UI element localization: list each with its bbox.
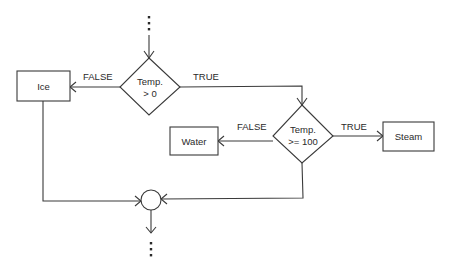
edge-label-true-1: TRUE — [193, 71, 219, 82]
edge-d2-false-to-water: FALSE — [218, 121, 273, 146]
process-ice-label: Ice — [37, 81, 50, 92]
decision-temp-gt-0-line2: > 0 — [143, 88, 156, 99]
decision-temp-gte-100-line2: >= 100 — [288, 136, 318, 147]
exit-arrow — [146, 210, 156, 233]
edge-label-false-1: FALSE — [83, 71, 113, 82]
process-steam-label: Steam — [395, 131, 423, 142]
edge-d1-false-to-ice: FALSE — [70, 71, 120, 92]
process-water: Water — [170, 127, 218, 155]
edge-label-false-2: FALSE — [237, 121, 267, 132]
decision-temp-gt-0-line1: Temp. — [137, 76, 163, 87]
edge-label-true-2: TRUE — [341, 121, 367, 132]
entry-arrow — [144, 35, 154, 58]
bottom-continuation-dots — [150, 242, 152, 256]
edge-ice-to-junction — [43, 101, 141, 206]
edge-d2-to-junction — [161, 163, 303, 204]
decision-temp-gte-100-line1: Temp. — [290, 124, 316, 135]
process-steam: Steam — [383, 122, 434, 151]
edge-d1-true-to-d2: TRUE — [180, 71, 307, 105]
decision-temp-gt-0: Temp. > 0 — [120, 58, 180, 115]
decision-temp-gte-100: Temp. >= 100 — [273, 105, 333, 163]
flowchart-diagram: Temp. > 0 FALSE Ice TRUE Temp. >= 100 FA… — [0, 0, 450, 276]
process-ice: Ice — [17, 71, 70, 101]
process-water-label: Water — [182, 136, 207, 147]
top-continuation-dots — [148, 16, 150, 30]
edge-d2-true-to-steam: TRUE — [333, 121, 383, 141]
junction-connector — [141, 190, 161, 210]
